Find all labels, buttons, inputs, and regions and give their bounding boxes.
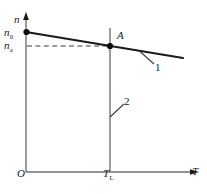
y-tick-operating-speed-main: n (4, 39, 10, 51)
origin-label: O (17, 168, 25, 179)
curve-1-motor-characteristic (26, 32, 183, 58)
operating-point-a-marker (107, 43, 113, 49)
up-arrow-icon (23, 12, 29, 20)
point-a-label: A (117, 30, 124, 41)
y-tick-operating-speed: na (4, 40, 13, 51)
y-tick-no-load-speed-sub: 0 (10, 33, 13, 40)
speed-torque-characteristic-figure: n n0 na O TL T A 1 2 (0, 0, 207, 194)
curve-2-label: 2 (124, 96, 130, 107)
y-tick-operating-speed-sub: a (10, 46, 13, 53)
x-axis-label: T (192, 166, 198, 177)
y-tick-no-load-speed: n0 (4, 27, 13, 38)
no-load-speed-marker (23, 29, 29, 35)
curve-2-leader-line (110, 104, 124, 117)
y-tick-no-load-speed-main: n (4, 26, 10, 38)
x-tick-load-torque: TL (103, 168, 113, 179)
x-tick-load-torque-sub: L (109, 174, 113, 181)
curve-1-label: 1 (155, 62, 161, 73)
y-axis-label: n (14, 14, 20, 25)
plot-canvas (0, 0, 207, 194)
